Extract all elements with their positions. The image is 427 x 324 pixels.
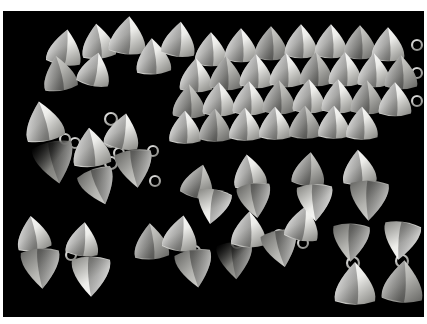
photograph-canvas (3, 11, 424, 317)
scene-svg (3, 11, 424, 317)
photo-frame: Triangular metal jewelry components on b… (0, 0, 427, 324)
